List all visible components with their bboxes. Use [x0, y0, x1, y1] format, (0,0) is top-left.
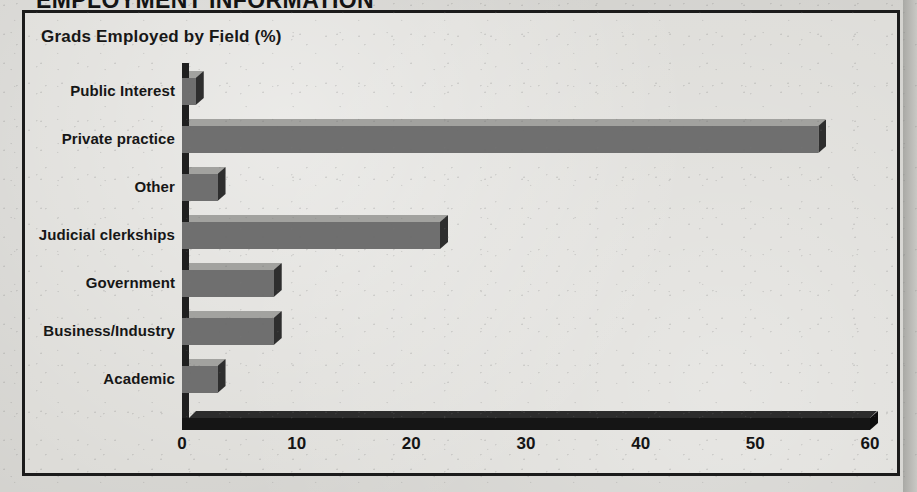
- bar-top-face: [189, 263, 281, 270]
- x-tick-40: 40: [631, 434, 650, 454]
- x-tick-60: 60: [861, 434, 880, 454]
- x-tick-0: 0: [177, 434, 186, 454]
- y-axis-label-5: Business/Industry: [25, 322, 175, 339]
- bar-judicial-clerkships: [182, 215, 455, 249]
- y-axis-label-0: Public Interest: [25, 82, 175, 99]
- bar-top-face: [189, 311, 281, 318]
- bar-front-face: [182, 174, 218, 201]
- bar-public-interest: [182, 71, 211, 105]
- x-axis-line: [182, 418, 870, 430]
- x-axis-top-face: [189, 411, 877, 418]
- x-tick-50: 50: [746, 434, 765, 454]
- bar-front-face: [182, 270, 274, 297]
- page-edge: [903, 0, 917, 492]
- bar-academic: [182, 359, 233, 393]
- bar-front-face: [182, 318, 274, 345]
- y-axis-label-6: Academic: [25, 370, 175, 387]
- bar-top-face: [189, 119, 825, 126]
- y-axis-category-labels: Public InterestPrivate practiceOtherJudi…: [25, 13, 175, 473]
- x-tick-30: 30: [517, 434, 536, 454]
- x-tick-20: 20: [402, 434, 421, 454]
- bar-private-practice: [182, 119, 833, 153]
- x-tick-10: 10: [287, 434, 306, 454]
- bar-front-face: [182, 78, 196, 105]
- y-axis-label-4: Government: [25, 274, 175, 291]
- bar-front-face: [182, 366, 218, 393]
- y-axis-label-1: Private practice: [25, 130, 175, 147]
- plot-area: Public InterestPrivate practiceOtherJudi…: [25, 13, 897, 473]
- scanned-page: EMPLOYMENT INFORMATION Grads Employed by…: [0, 0, 917, 492]
- y-axis-label-2: Other: [25, 178, 175, 195]
- bar-government: [182, 263, 289, 297]
- y-axis-label-3: Judicial clerkships: [25, 226, 175, 243]
- bar-top-face: [189, 215, 447, 222]
- chart-frame: Grads Employed by Field (%) Public Inter…: [22, 10, 900, 476]
- bar-other: [182, 167, 233, 201]
- bar-business-industry: [182, 311, 289, 345]
- bar-front-face: [182, 126, 818, 153]
- bar-front-face: [182, 222, 440, 249]
